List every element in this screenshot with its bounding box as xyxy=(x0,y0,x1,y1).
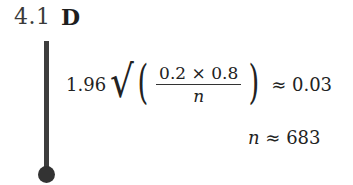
left-parenthesis: ( xyxy=(138,59,149,105)
variable-n: n xyxy=(248,127,260,148)
answer-letter: D xyxy=(61,4,80,30)
equation-line-2: n ≈ 683 xyxy=(248,127,321,148)
right-parenthesis: ) xyxy=(249,59,260,105)
fraction: 0.2 × 0.8 n xyxy=(156,63,241,106)
approx-result-2: ≈ 683 xyxy=(265,127,320,148)
fraction-denominator: n xyxy=(193,85,204,106)
marker-dot xyxy=(38,166,55,183)
fraction-numerator: 0.2 × 0.8 xyxy=(156,63,241,85)
coefficient: 1.96 xyxy=(66,74,106,95)
approx-result-1: ≈ 0.03 xyxy=(271,74,332,95)
square-root-symbol: √ xyxy=(110,60,134,104)
question-number: 4.1 xyxy=(14,4,51,29)
vertical-marker-bar xyxy=(44,41,49,172)
equation-line-1: 1.96 √ ( 0.2 × 0.8 n ) ≈ 0.03 xyxy=(66,58,332,110)
